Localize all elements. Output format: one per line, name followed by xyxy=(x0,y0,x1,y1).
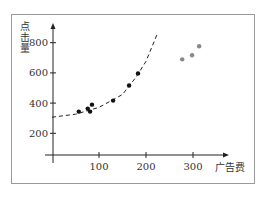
x-tick-label: 200 xyxy=(136,161,155,172)
x-tick-label: 100 xyxy=(89,161,108,172)
y-axis-label: 点 xyxy=(20,21,30,32)
y-axis-label: 击 xyxy=(20,32,30,43)
data-point xyxy=(180,57,184,61)
data-point xyxy=(88,109,92,113)
data-point xyxy=(90,102,94,106)
data-point xyxy=(197,44,201,48)
y-tick-label: 400 xyxy=(29,98,48,109)
data-point xyxy=(190,53,194,57)
trend-curve xyxy=(52,33,158,118)
data-point xyxy=(111,98,115,102)
data-point xyxy=(136,71,140,75)
trend-line xyxy=(52,33,158,118)
x-axis-arrow-icon xyxy=(223,153,229,158)
y-axis-label: 量 xyxy=(20,43,30,54)
x-axis-label: 广告费 xyxy=(215,161,245,173)
axes xyxy=(45,23,229,163)
y-axis-arrow-icon xyxy=(51,23,56,29)
data-point xyxy=(127,83,131,87)
axis-labels: 100200300200400600800广告费点击量 xyxy=(20,21,245,173)
data-point xyxy=(77,109,81,113)
x-tick-label: 300 xyxy=(183,161,202,172)
y-tick-label: 600 xyxy=(29,67,48,78)
data-points xyxy=(77,44,202,114)
scatter-chart: 100200300200400600800广告费点击量 xyxy=(0,0,267,200)
y-tick-label: 800 xyxy=(29,37,48,48)
y-tick-label: 200 xyxy=(29,128,48,139)
